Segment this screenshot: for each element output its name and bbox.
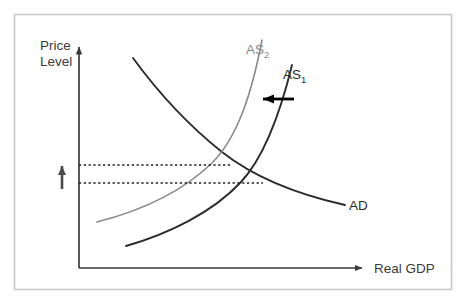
as1-curve-label: AS1 bbox=[283, 67, 306, 85]
as1-label-subscript: 1 bbox=[301, 74, 306, 85]
as2-label-base: AS bbox=[246, 42, 264, 57]
y-axis-label-line2: Level bbox=[40, 54, 72, 69]
as2-curve bbox=[97, 40, 262, 222]
ad-curve-label: AD bbox=[349, 198, 368, 213]
as2-label-subscript: 2 bbox=[264, 49, 269, 60]
figure-border bbox=[15, 15, 452, 290]
as1-curve bbox=[126, 65, 292, 246]
as2-curve-label: AS2 bbox=[246, 42, 269, 60]
as1-label-base: AS bbox=[283, 67, 301, 82]
as-ad-diagram: Price Level Real GDP AS2 AS1 AD bbox=[0, 0, 467, 307]
x-axis-label: Real GDP bbox=[374, 261, 435, 276]
y-axis-label-line1: Price bbox=[40, 38, 71, 53]
